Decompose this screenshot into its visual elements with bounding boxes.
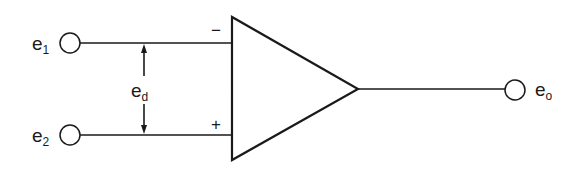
amplifier-triangle-icon [232, 17, 358, 160]
ed-label: e [131, 80, 142, 101]
e1-terminal-icon [60, 33, 80, 53]
eo-label: e [535, 79, 546, 100]
svg-text:e2: e2 [32, 125, 50, 149]
svg-text:ed: ed [131, 80, 148, 104]
output-eo: eo [358, 79, 553, 103]
differential-voltage-indicator: ed [131, 44, 148, 134]
e1-subscript: 1 [43, 43, 50, 57]
e2-subscript: 2 [43, 135, 50, 149]
ed-subscript: d [142, 90, 149, 104]
arrow-up-icon [141, 44, 147, 53]
inverting-input-sign: − [211, 21, 221, 40]
svg-text:e1: e1 [32, 33, 50, 57]
e1-label: e [32, 33, 43, 54]
eo-subscript: o [546, 89, 553, 103]
input-e2: e2 [32, 125, 232, 149]
e2-label: e [32, 125, 43, 146]
input-e1: e1 [32, 33, 232, 57]
op-amp-diagram: e1 e2 ed − + eo [0, 0, 580, 171]
svg-text:eo: eo [535, 79, 553, 103]
output-terminal-icon [505, 80, 525, 100]
arrow-down-icon [141, 125, 147, 134]
noninverting-input-sign: + [211, 115, 221, 134]
e2-terminal-icon [60, 125, 80, 145]
